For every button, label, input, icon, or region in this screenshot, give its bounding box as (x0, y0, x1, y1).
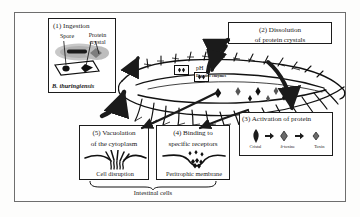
step-1-ingestion-box: (1) Ingestion Spore Protein crystal (48, 18, 116, 93)
activation-sequence-symbols (240, 127, 334, 145)
figure-canvas: pH Digestive enzymes (1) Ingestion Spore… (0, 0, 360, 217)
step-4-binding-box: (4) Binding to specific receptors Peritr… (156, 125, 230, 180)
intestinal-cells-label: Intestinal cells (88, 189, 218, 196)
step-4-line1: (4) Binding to (157, 126, 229, 137)
step-5-vacuolation-box: (5) Vacuolation of the cytoplasm Cell di… (79, 125, 149, 180)
cell-disruption-label: Cell disruption (80, 170, 150, 177)
receptor-binding-illustration (157, 150, 231, 170)
legend-delta-toxin-label: δ-toxine (281, 144, 296, 149)
digestive-enzymes-label: Digestive enzymes (196, 73, 226, 78)
spore-label: Spore (54, 33, 80, 39)
step-5-line1: (5) Vacuolation (80, 126, 148, 137)
bacterium-micrograph-illustration (49, 41, 117, 83)
step-4-line2: specific receptors (157, 137, 229, 148)
step-3-title: (3) Activation of protein (242, 115, 332, 123)
step-2-line1: (2) Dissolution (229, 23, 331, 34)
step-2-line2: of protein crystals (229, 34, 331, 45)
activation-legend: Cristal δ-toxine Toxin (240, 144, 334, 149)
step-2-dissolution-box: (2) Dissolution of protein crystals (228, 22, 332, 44)
cell-disruption-illustration (80, 150, 150, 170)
gut-crystal-chip (174, 65, 189, 75)
legend-crystal-label: Cristal (250, 144, 262, 149)
step-3-activation-box: (3) Activation of protein Cristal δ-toxi… (239, 112, 333, 156)
species-label: B. thuringiensis (52, 82, 112, 89)
step-1-title: (1) Ingestion (53, 22, 115, 30)
legend-toxin-label: Toxin (314, 144, 324, 149)
ph-label: pH (196, 64, 204, 71)
protein-crystal-label-line1: Protein (89, 32, 107, 38)
step-5-line2: of the cytoplasm (80, 137, 148, 148)
peritrophic-membrane-label: Peritrophic membrane (157, 170, 231, 177)
